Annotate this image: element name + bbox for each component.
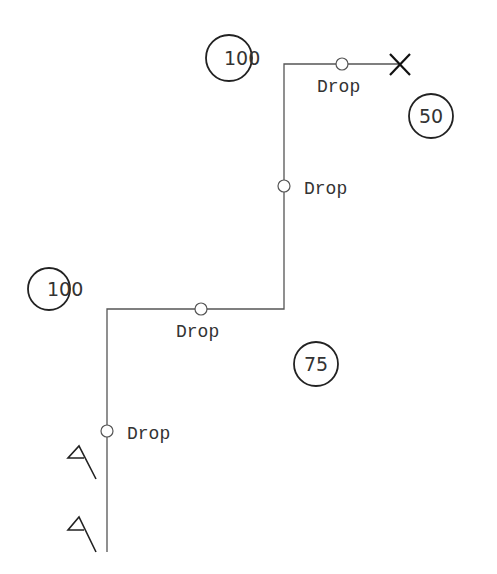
zone-circle[interactable]: 75 (294, 342, 338, 386)
drop-point[interactable]: Drop (101, 424, 170, 444)
drop-circle-icon (195, 303, 207, 315)
zone-value: 75 (304, 353, 328, 375)
drop-circle-icon (336, 58, 348, 70)
zone-circle[interactable]: 100 (28, 268, 83, 310)
drop-circle-icon (278, 180, 290, 192)
route-line (107, 64, 400, 552)
route-diagram: Drop Drop Drop Drop 100 50 (0, 0, 497, 574)
flag-icon (68, 517, 96, 552)
drop-label: Drop (176, 322, 219, 342)
zone-value: 100 (224, 47, 260, 69)
zone-value: 100 (47, 278, 83, 300)
drop-label: Drop (317, 77, 360, 97)
diagram-svg: Drop Drop Drop Drop 100 50 (0, 0, 497, 574)
zone-circle[interactable]: 100 (206, 35, 260, 81)
drop-label: Drop (127, 424, 170, 444)
drop-label: Drop (304, 179, 347, 199)
zone-value: 50 (419, 105, 443, 127)
drop-point[interactable]: Drop (278, 179, 347, 199)
zone-circle[interactable]: 50 (409, 94, 453, 138)
drop-circle-icon (101, 425, 113, 437)
flag-icon (68, 446, 96, 479)
